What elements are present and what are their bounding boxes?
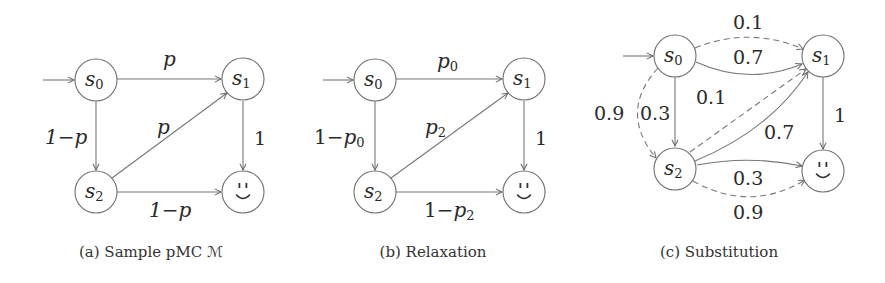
- smiley-face-icon: [802, 150, 844, 192]
- edge-label-s1-goal: 1: [535, 127, 547, 149]
- edge-label-s0-s1-solid: 0.7: [733, 46, 763, 68]
- edge-label-s2-goal: 1−p2: [424, 198, 475, 223]
- edge-label-s0-s2-dashed: 0.9: [594, 102, 624, 124]
- edge-label-s2-s1-solid: 0.7: [764, 121, 794, 143]
- edge-s2-s1: [391, 93, 508, 178]
- caption-c: (c) Substitution: [660, 243, 778, 261]
- panel-b: s0 s1 s2 p0 1−p0 p2 1−p2 1 (b) Relaxatio…: [314, 49, 547, 261]
- edge-label-s2-s1-dashed: 0.1: [696, 86, 726, 108]
- state-s1: s1: [802, 35, 844, 77]
- edge-label-s2-goal-dashed: 0.9: [733, 201, 763, 223]
- state-s0: s0: [654, 35, 696, 77]
- edge-label-s0-s2-solid: 0.3: [640, 102, 670, 124]
- state-s2: s2: [75, 171, 117, 213]
- panel-a: s0 s1 s2 p 1−p p 1−p 1 (a) Sample pMC ℳ: [43, 47, 266, 261]
- caption-a: (a) Sample pMC ℳ: [79, 243, 223, 261]
- edge-label-s1-goal: 1: [254, 127, 266, 149]
- edge-label-s0-s1: p: [163, 47, 176, 71]
- panel-c: s0 s1 s2 0.1 0.7 0.9 0.3 0.1 0.7 0.3 0.9…: [594, 11, 846, 261]
- edge-s2-goal-solid: [697, 160, 802, 166]
- edge-label-s1-goal: 1: [834, 104, 846, 126]
- state-s1: s1: [222, 58, 264, 100]
- state-s0: s0: [354, 59, 396, 101]
- caption-b: (b) Relaxation: [380, 243, 487, 261]
- state-s2: s2: [354, 171, 396, 213]
- edge-label-s0-s1-dashed: 0.1: [733, 11, 763, 33]
- edge-label-s2-goal-solid: 0.3: [733, 167, 763, 189]
- state-s0: s0: [75, 59, 117, 101]
- edge-label-s2-s1: p2: [425, 115, 446, 140]
- state-s1: s1: [503, 58, 545, 100]
- edge-label-s0-s1: p0: [437, 49, 458, 74]
- smiley-face-icon: [503, 171, 545, 213]
- edge-label-s2-s1: p: [157, 115, 170, 139]
- figure-canvas: s0 s1 s2 p 1−p p 1−p 1 (a) Sample pMC ℳ: [0, 0, 885, 283]
- state-s2: s2: [654, 148, 696, 190]
- edge-label-s0-s2: 1−p0: [314, 125, 365, 150]
- edge-label-s2-goal: 1−p: [149, 198, 191, 222]
- edge-label-s0-s2: 1−p: [45, 125, 87, 149]
- smiley-face-icon: [222, 171, 264, 213]
